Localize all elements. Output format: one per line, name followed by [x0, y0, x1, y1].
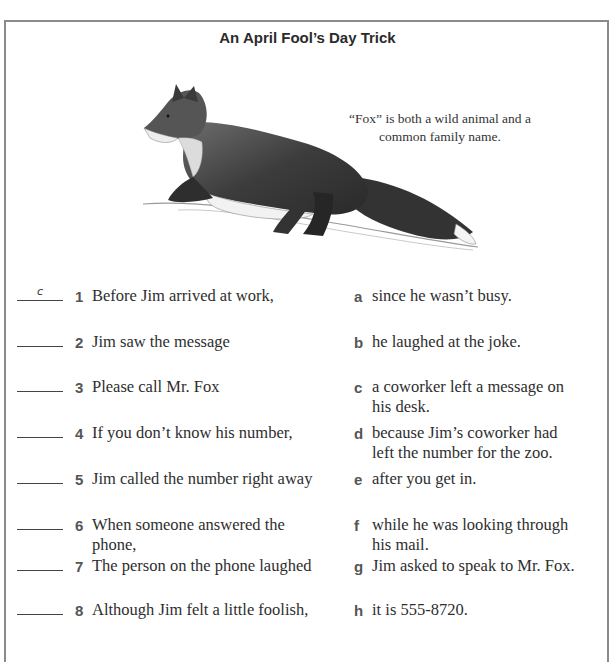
item-number: 4: [75, 424, 83, 444]
item-number: 6: [75, 516, 83, 536]
clause-line-1: When someone answered the: [92, 515, 332, 535]
clause-line-1: a coworker left a message on: [372, 377, 592, 397]
clause-text: When someone answered the phone,: [92, 515, 332, 555]
answer-blank[interactable]: c: [17, 286, 63, 301]
clause-line-2: phone,: [92, 535, 332, 555]
fox-drawing-icon: [138, 82, 483, 257]
clause-text: because Jim’s coworker had left the numb…: [372, 423, 592, 463]
clause-text: since he wasn’t busy.: [372, 286, 592, 306]
item-number: 1: [75, 287, 83, 307]
clause-text: he laughed at the joke.: [372, 332, 592, 352]
answer-blank[interactable]: [17, 423, 63, 438]
fox-caption: “Fox” is both a wild animal and a common…: [330, 110, 550, 146]
item-number: 3: [75, 378, 83, 398]
clause-text: Before Jim arrived at work,: [92, 286, 332, 306]
clause-line-1: because Jim’s coworker had: [372, 423, 592, 443]
answer-blank[interactable]: [17, 600, 63, 615]
worksheet-title: An April Fool’s Day Trick: [0, 29, 615, 46]
clause-line-2: his mail.: [372, 535, 592, 555]
clause-text: The person on the phone laughed: [92, 556, 332, 576]
item-letter: c: [354, 378, 362, 398]
answer-blank[interactable]: [17, 332, 63, 347]
answer-blank[interactable]: [17, 377, 63, 392]
answer-blank[interactable]: [17, 469, 63, 484]
answer-blank[interactable]: [17, 515, 63, 530]
clause-text: it is 555-8720.: [372, 600, 592, 620]
clause-text: If you don’t know his number,: [92, 423, 332, 443]
item-number: 8: [75, 601, 83, 621]
item-number: 7: [75, 557, 83, 577]
clause-text: after you get in.: [372, 469, 592, 489]
item-number: 2: [75, 333, 83, 353]
item-letter: f: [354, 516, 359, 536]
clause-text: while he was looking through his mail.: [372, 515, 592, 555]
clause-text: Please call Mr. Fox: [92, 377, 332, 397]
caption-line-2: common family name.: [330, 128, 550, 146]
clause-text: a coworker left a message on his desk.: [372, 377, 592, 417]
clause-text: Jim asked to speak to Mr. Fox.: [372, 556, 592, 576]
clause-text: Although Jim felt a little foolish,: [92, 600, 332, 620]
clause-line-2: left the number for the zoo.: [372, 443, 592, 463]
item-letter: d: [354, 424, 363, 444]
caption-line-1: “Fox” is both a wild animal and a: [330, 110, 550, 128]
clause-line-1: while he was looking through: [372, 515, 592, 535]
item-letter: h: [354, 601, 363, 621]
clause-text: Jim saw the message: [92, 332, 332, 352]
answer-blank[interactable]: [17, 556, 63, 571]
clause-text: Jim called the number right away: [92, 469, 332, 489]
item-letter: g: [354, 557, 363, 577]
item-letter: e: [354, 470, 362, 490]
clause-line-2: his desk.: [372, 397, 592, 417]
item-number: 5: [75, 470, 83, 490]
item-letter: a: [354, 287, 362, 307]
item-letter: b: [354, 333, 363, 353]
